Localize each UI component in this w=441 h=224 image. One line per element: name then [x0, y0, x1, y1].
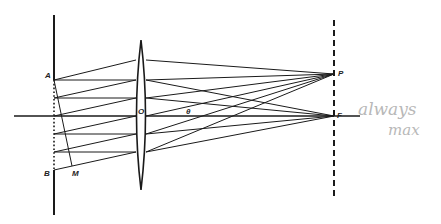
label-B: B — [44, 169, 50, 178]
annotation-max: max — [388, 121, 420, 139]
label-theta: θ — [186, 107, 191, 116]
label-M: M — [72, 169, 79, 178]
oblique-rays-left — [54, 60, 136, 170]
diffraction-diagram: A B M O θ P F always max — [0, 0, 441, 224]
rays-to-P — [146, 60, 334, 152]
label-O: O — [138, 107, 145, 116]
label-A: A — [44, 71, 51, 80]
annotation-always: always — [358, 99, 417, 119]
line-AM — [54, 80, 72, 166]
label-P: P — [338, 69, 344, 78]
